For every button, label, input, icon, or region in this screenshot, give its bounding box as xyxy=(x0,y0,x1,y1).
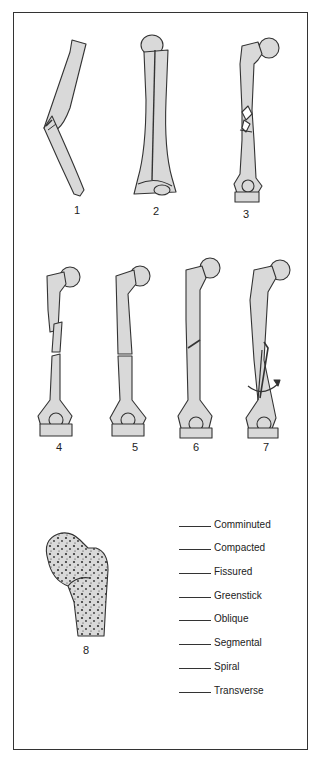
term-segmental: Segmental xyxy=(179,624,271,648)
answer-blank[interactable] xyxy=(179,526,211,527)
panel-label-1: 1 xyxy=(74,204,80,216)
bone-7-spiral xyxy=(246,260,290,438)
panel-label-5: 5 xyxy=(132,441,138,453)
panel-label-2: 2 xyxy=(153,205,159,217)
panel-label-4: 4 xyxy=(56,441,62,453)
panel-label-3: 3 xyxy=(243,208,249,220)
term-comminuted: Comminuted xyxy=(179,506,271,530)
bone-2-fissured xyxy=(134,35,176,195)
panel-label-8: 8 xyxy=(83,644,89,656)
answer-blank[interactable] xyxy=(179,549,211,550)
fracture-terms-list: Comminuted Compacted Fissured Greenstick… xyxy=(179,506,271,696)
bone-1-greenstick xyxy=(44,40,86,196)
answer-blank[interactable] xyxy=(179,597,211,598)
bone-8-compacted xyxy=(46,533,108,636)
panel-label-6: 6 xyxy=(193,441,199,453)
answer-blank[interactable] xyxy=(179,692,211,693)
answer-blank[interactable] xyxy=(179,620,211,621)
bone-4-segmental xyxy=(38,267,80,436)
term-greenstick: Greenstick xyxy=(179,577,271,601)
answer-blank[interactable] xyxy=(179,573,211,574)
term-fissured: Fissured xyxy=(179,553,271,577)
bone-5-transverse xyxy=(110,266,150,436)
term-spiral: Spiral xyxy=(179,648,271,672)
fracture-illustrations xyxy=(0,0,319,758)
term-oblique: Oblique xyxy=(179,601,271,625)
answer-blank[interactable] xyxy=(179,668,211,669)
answer-blank[interactable] xyxy=(179,644,211,645)
term-transverse: Transverse xyxy=(179,672,271,696)
bone-3-comminuted xyxy=(234,38,279,202)
panel-label-7: 7 xyxy=(263,441,269,453)
bone-6-oblique xyxy=(178,258,220,438)
term-compacted: Compacted xyxy=(179,530,271,554)
